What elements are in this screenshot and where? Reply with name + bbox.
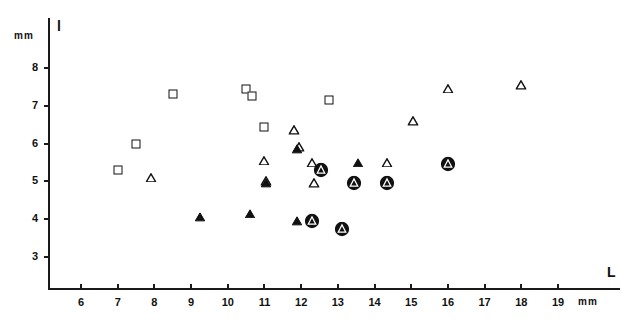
x-tick-mark (410, 284, 412, 289)
x-axis-title: L (607, 264, 616, 280)
x-axis-line (48, 288, 620, 290)
x-tick-mark (557, 284, 559, 289)
marker-circled-filled-triangle (305, 214, 320, 229)
y-tick-label: 8 (16, 61, 38, 73)
marker-circled-filled-triangle (314, 163, 329, 178)
y-tick-mark (44, 143, 49, 145)
x-tick-label: 9 (179, 296, 203, 308)
y-tick-mark (44, 105, 49, 107)
x-tick-mark (117, 284, 119, 289)
x-tick-label: 15 (399, 296, 423, 308)
x-tick-mark (484, 284, 486, 289)
x-tick-label: 10 (216, 296, 240, 308)
marker-open-triangle (259, 156, 270, 166)
marker-filled-triangle (292, 144, 303, 154)
marker-filled-triangle (261, 178, 272, 188)
x-tick-label: 6 (69, 296, 93, 308)
x-tick-label: 18 (509, 296, 533, 308)
x-tick-mark (337, 284, 339, 289)
y-tick-mark (44, 256, 49, 258)
marker-open-square (132, 139, 141, 148)
scatter-plot: mm l L mm 345678678910111213141516171819 (0, 0, 637, 330)
y-tick-label: 3 (16, 250, 38, 262)
y-tick-label: 5 (16, 174, 38, 186)
x-tick-label: 7 (106, 296, 130, 308)
x-tick-label: 13 (326, 296, 350, 308)
x-tick-mark (263, 284, 265, 289)
marker-open-triangle (288, 125, 299, 135)
x-tick-mark (520, 284, 522, 289)
marker-filled-triangle (353, 158, 364, 168)
marker-circled-filled-triangle (347, 176, 362, 191)
x-axis-unit-label: mm (578, 296, 598, 307)
y-tick-label: 6 (16, 137, 38, 149)
marker-open-square (260, 122, 269, 131)
marker-open-square (168, 90, 177, 99)
x-tick-mark (374, 284, 376, 289)
x-tick-label: 14 (363, 296, 387, 308)
marker-open-square (247, 92, 256, 101)
y-axis-line (48, 18, 50, 290)
y-tick-mark (44, 180, 49, 182)
marker-circled-filled-triangle (334, 221, 349, 236)
x-tick-label: 12 (289, 296, 313, 308)
marker-filled-triangle (292, 216, 303, 226)
y-axis-unit-label: mm (14, 30, 34, 41)
x-tick-label: 17 (473, 296, 497, 308)
y-axis-title: l (57, 18, 61, 34)
marker-filled-triangle (195, 212, 206, 222)
x-tick-label: 19 (546, 296, 570, 308)
marker-circled-filled-triangle (440, 157, 455, 172)
x-tick-mark (153, 284, 155, 289)
x-tick-mark (300, 284, 302, 289)
marker-open-triangle (382, 158, 393, 168)
marker-open-square (113, 166, 122, 175)
y-tick-mark (44, 67, 49, 69)
marker-open-triangle (516, 80, 527, 90)
marker-open-triangle (442, 84, 453, 94)
x-tick-mark (447, 284, 449, 289)
x-tick-mark (227, 284, 229, 289)
y-tick-label: 4 (16, 212, 38, 224)
marker-open-triangle (408, 116, 419, 126)
marker-circled-filled-triangle (380, 176, 395, 191)
marker-open-square (324, 96, 333, 105)
x-tick-label: 11 (252, 296, 276, 308)
x-tick-label: 8 (142, 296, 166, 308)
x-tick-label: 16 (436, 296, 460, 308)
x-tick-mark (190, 284, 192, 289)
marker-filled-triangle (244, 209, 255, 219)
marker-open-triangle (145, 173, 156, 183)
y-tick-label: 7 (16, 99, 38, 111)
marker-open-triangle (308, 178, 319, 188)
x-tick-mark (80, 284, 82, 289)
y-tick-mark (44, 218, 49, 220)
